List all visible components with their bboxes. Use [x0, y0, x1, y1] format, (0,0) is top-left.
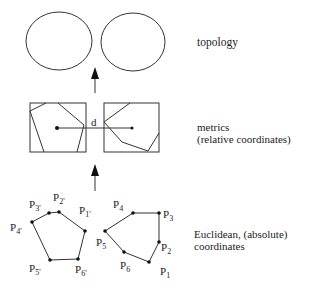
metrics-sublabel: (relative coordinates): [197, 133, 291, 145]
euclidean-sublabel: coordinates: [194, 240, 245, 252]
point-label-p4: P4: [113, 198, 123, 215]
distance-label: d: [91, 116, 97, 128]
point-label-p3-prime: P3': [29, 198, 41, 215]
euclidean-label: Euclidean, (absolute): [194, 228, 287, 240]
point-label-p5: P5: [96, 236, 106, 253]
point-label-p6: P6: [120, 259, 130, 276]
metrics-label: metrics: [197, 121, 229, 133]
point-label-p5-prime: P5': [29, 262, 41, 279]
topology-ellipse-left: [26, 12, 92, 70]
topology-ellipse-right: [101, 13, 165, 71]
topology-label: topology: [197, 36, 238, 48]
point-label-p2: P2: [161, 241, 171, 258]
arrow-up-icon: [91, 67, 99, 93]
polygon-right: [103, 211, 161, 264]
point-label-p1-prime: P1': [79, 204, 91, 221]
point-label-p2-prime: P2': [53, 191, 65, 208]
point-label-p4-prime: P4': [10, 221, 22, 238]
point-label-p1: P1: [160, 265, 170, 282]
arrow-up-icon: [91, 164, 99, 191]
point-label-p6-prime: P6': [75, 263, 87, 280]
point-label-p3: P3: [163, 208, 173, 225]
